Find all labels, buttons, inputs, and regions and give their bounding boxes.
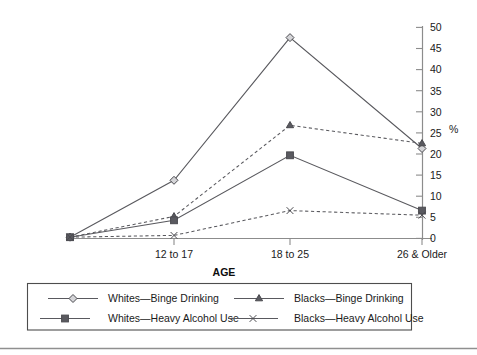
y-tick-label: 45: [430, 42, 442, 54]
square-icon: [62, 315, 69, 322]
y-tick-label: 15: [430, 169, 442, 181]
data-point-marker: [287, 152, 294, 159]
data-point-marker: [286, 122, 293, 128]
diamond-icon: [69, 295, 77, 303]
legend-item-whites-binge[interactable]: Whites—Binge Drinking: [48, 292, 219, 304]
x-tick-label: 26 & Older: [397, 248, 448, 260]
series-markers-blacks-heavy: [67, 207, 426, 240]
x-axis-ticks: [174, 239, 422, 246]
chart-legend: Whites—Binge Drinking Blacks—Binge Drink…: [28, 284, 424, 331]
y-tick-label: 25: [430, 127, 442, 139]
x-tick-label: 12 to 17: [155, 248, 193, 260]
y-tick-label: 35: [430, 85, 442, 97]
series-line-whites-heavy: [70, 155, 422, 237]
legend-label: Blacks—Heavy Alcohol Use: [294, 312, 424, 324]
legend-label: Whites—Heavy Alcohol Use: [108, 312, 239, 324]
series-lines: [70, 38, 422, 238]
series-line-blacks-heavy: [70, 211, 422, 238]
y-tick-label: 30: [430, 106, 442, 118]
y-axis-unit-label: %: [449, 123, 458, 135]
triangle-icon: [255, 295, 262, 301]
y-tick-label: 20: [430, 148, 442, 160]
x-axis-tick-labels: 12 to 17 18 to 25 26 & Older: [155, 248, 448, 260]
legend-item-blacks-binge[interactable]: Blacks—Binge Drinking: [234, 292, 404, 304]
y-tick-label: 5: [430, 211, 436, 223]
legend-item-whites-heavy[interactable]: Whites—Heavy Alcohol Use: [40, 312, 239, 324]
series-markers-whites-heavy: [67, 152, 426, 241]
legend-label: Blacks—Binge Drinking: [294, 292, 404, 304]
data-point-marker: [287, 207, 294, 214]
x-axis-title: AGE: [213, 266, 236, 278]
y-tick-label: 40: [430, 63, 442, 75]
series-line-blacks-binge: [70, 125, 422, 237]
y-tick-label: 0: [430, 232, 436, 244]
series-line-whites-binge: [70, 38, 422, 238]
x-tick-label: 18 to 25: [271, 248, 309, 260]
y-axis-tick-labels: 50 45 40 35 30 25 20 15 10 5 0: [430, 21, 442, 244]
legend-label: Whites—Binge Drinking: [108, 292, 219, 304]
line-chart: 50 45 40 35 30 25 20 15 10 5 0 % 12 to 1…: [0, 0, 477, 355]
chart-container: 50 45 40 35 30 25 20 15 10 5 0 % 12 to 1…: [0, 0, 477, 355]
legend-item-blacks-heavy[interactable]: Blacks—Heavy Alcohol Use: [228, 312, 424, 324]
data-point-marker: [171, 217, 178, 224]
y-tick-label: 10: [430, 190, 442, 202]
y-tick-label: 50: [430, 21, 442, 33]
